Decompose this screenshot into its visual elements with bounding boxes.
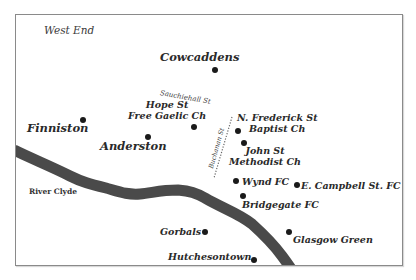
river-label-clyde: River Clyde: [29, 186, 77, 197]
place-dot-cowcaddens[interactable]: [212, 67, 218, 73]
place-dot-finniston[interactable]: [80, 117, 86, 123]
place-label-hutchesontown: Hutchesontown: [168, 251, 251, 262]
place-dot-n-frederick[interactable]: [235, 128, 241, 134]
place-label-hope-st-line2: Free Gaelic Ch: [128, 110, 206, 121]
region-label-west-end: West End: [44, 25, 94, 36]
place-label-cowcaddens: Cowcaddens: [160, 51, 239, 64]
place-label-john-st-line2: Methodist Ch: [228, 156, 302, 167]
place-label-anderston: Anderston: [100, 140, 167, 153]
place-dot-wynd-fc[interactable]: [233, 178, 239, 184]
place-label-hope-st-line1: Hope St: [128, 99, 206, 110]
place-label-e-campbell: E. Campbell St. FC: [301, 180, 401, 191]
place-dot-gorbals[interactable]: [202, 229, 208, 235]
place-label-john-st-line1: John St: [228, 145, 302, 156]
place-dot-glasgow-green[interactable]: [286, 229, 292, 235]
place-label-john-st: John St Methodist Ch: [228, 145, 302, 167]
place-label-wynd-fc: Wynd FC: [242, 176, 289, 187]
place-label-glasgow-green: Glasgow Green: [293, 234, 373, 245]
place-label-hope-st: Hope St Free Gaelic Ch: [128, 99, 206, 121]
place-label-n-frederick-line2: Baptist Ch: [237, 123, 318, 134]
place-dot-anderston[interactable]: [145, 134, 151, 140]
place-dot-e-campbell[interactable]: [294, 182, 300, 188]
place-dot-hope-st[interactable]: [191, 124, 197, 130]
place-dot-john-st[interactable]: [241, 140, 247, 146]
place-label-n-frederick: N. Frederick St Baptist Ch: [237, 112, 318, 134]
place-label-finniston: Finniston: [27, 122, 88, 135]
place-dot-hutchesontown[interactable]: [251, 257, 257, 263]
place-label-gorbals: Gorbals: [160, 226, 201, 237]
place-label-n-frederick-line1: N. Frederick St: [237, 112, 318, 123]
place-label-bridgegate-fc: Bridgegate FC: [242, 199, 319, 210]
